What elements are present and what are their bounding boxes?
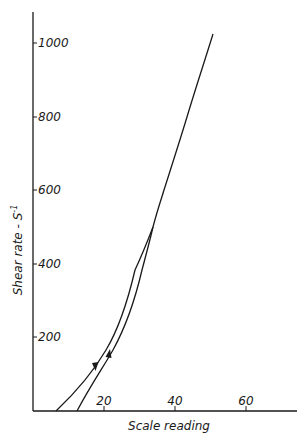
y-tick-label-600: 600 xyxy=(38,183,61,197)
x-tick-label-60: 60 xyxy=(238,394,254,408)
down-curve xyxy=(56,227,153,411)
y-tick-label-200: 200 xyxy=(38,330,61,344)
y-tick-label-1000: 1000 xyxy=(38,36,69,50)
y-tick-label-400: 400 xyxy=(38,257,61,271)
x-tick-label-40: 40 xyxy=(167,394,183,408)
up-curve xyxy=(77,34,213,411)
y-tick-label-800: 800 xyxy=(38,110,61,124)
svg-text:Shear rate - S-1: Shear rate - S-1 xyxy=(10,205,25,296)
y-axis-title-main: Shear rate - S xyxy=(11,212,25,295)
y-axis-title-superscript: -1 xyxy=(10,205,19,213)
x-tick-label-20: 20 xyxy=(96,394,112,408)
y-axis-title: Shear rate - S-1 xyxy=(10,205,25,296)
shear-rate-chart: 200 400 600 800 1000 20 40 60 Scale read… xyxy=(0,0,306,436)
x-axis-title: Scale reading xyxy=(128,419,210,433)
